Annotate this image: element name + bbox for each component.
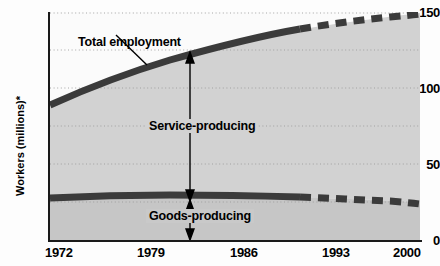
x-tick-1986: 1986 xyxy=(230,245,258,260)
x-tick-1972: 1972 xyxy=(45,245,73,260)
x-tick-2000: 2000 xyxy=(393,245,421,260)
goods-producing-line-solid xyxy=(50,195,300,198)
total-employment-label: Total employment xyxy=(78,35,181,49)
service-producing-label: Service-producing xyxy=(146,119,258,133)
x-tick-1979: 1979 xyxy=(137,245,165,260)
x-axis-line xyxy=(48,240,422,242)
chart-figure: Workers (millions)* 150 100 50 0 xyxy=(0,0,440,266)
y-axis-title: Workers (millions)* xyxy=(14,96,26,196)
x-tick-1993: 1993 xyxy=(322,245,350,260)
goods-producing-label: Goods-producing xyxy=(146,209,254,223)
y-axis-line xyxy=(48,12,50,242)
